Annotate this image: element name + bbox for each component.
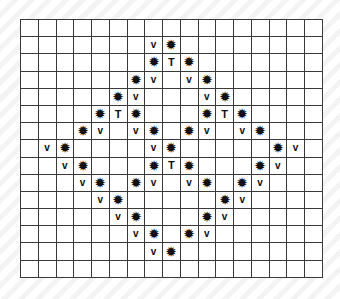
grid-cell	[234, 54, 252, 71]
grid-cell: ✹	[270, 140, 288, 157]
v-marker: v	[275, 161, 281, 171]
grid-cell	[199, 20, 217, 37]
grid-cell	[39, 89, 57, 106]
star-burst-icon: ✹	[184, 125, 194, 137]
grid-cell	[252, 209, 270, 226]
grid-cell	[234, 20, 252, 37]
t-marker: T	[168, 57, 175, 68]
star-burst-icon: ✹	[78, 125, 88, 137]
grid-cell	[216, 72, 234, 89]
grid-cell	[163, 89, 181, 106]
grid-cell	[216, 140, 234, 157]
star-burst-icon: ✹	[166, 39, 176, 51]
grid-cell	[234, 261, 252, 278]
grid-cell	[234, 89, 252, 106]
grid-cell: v	[199, 123, 217, 140]
grid-cell	[57, 226, 75, 243]
grid-cell	[110, 226, 128, 243]
grid-cell	[21, 261, 39, 278]
grid-cell: ✹	[128, 209, 146, 226]
grid-cell	[216, 20, 234, 37]
grid-cell	[199, 37, 217, 54]
grid-cell	[74, 106, 92, 123]
grid-cell	[21, 140, 39, 157]
grid-cell	[92, 261, 110, 278]
grid-cell	[234, 140, 252, 157]
v-marker: v	[151, 247, 157, 257]
grid-cell	[305, 123, 323, 140]
symbol-grid: v✹✹T✹✹vv✹✹vv✹✹T✹✹T✹✹vv✹✹vv✹v✹v✹✹vv✹✹T✹✹v…	[20, 19, 323, 278]
grid-cell: ✹	[234, 106, 252, 123]
grid-cell: v	[92, 192, 110, 209]
grid-cell	[74, 37, 92, 54]
grid-cell	[74, 243, 92, 260]
grid-cell: v	[216, 209, 234, 226]
grid-cell	[270, 175, 288, 192]
grid-cell: ✹	[128, 106, 146, 123]
t-marker: T	[221, 109, 228, 120]
v-marker: v	[80, 178, 86, 188]
grid-cell	[234, 72, 252, 89]
grid-cell	[252, 106, 270, 123]
v-marker: v	[133, 229, 139, 239]
grid-cell	[57, 123, 75, 140]
grid-cell	[163, 20, 181, 37]
grid-cell	[21, 192, 39, 209]
grid-cell	[92, 54, 110, 71]
v-marker: v	[151, 178, 157, 188]
grid-cell	[110, 140, 128, 157]
grid-cell	[163, 72, 181, 89]
star-burst-icon: ✹	[202, 211, 212, 223]
grid-cell	[74, 54, 92, 71]
grid-cell	[270, 106, 288, 123]
grid-cell: v	[145, 140, 163, 157]
grid-cell: v	[199, 226, 217, 243]
grid-cell: ✹	[181, 226, 199, 243]
star-burst-icon: ✹	[131, 74, 141, 86]
grid-cell: ✹	[110, 192, 128, 209]
grid-cell	[270, 226, 288, 243]
v-marker: v	[240, 195, 246, 205]
grid-cell: ✹	[163, 243, 181, 260]
grid-cell	[39, 209, 57, 226]
grid-cell	[74, 20, 92, 37]
grid-cell	[110, 175, 128, 192]
star-burst-icon: ✹	[255, 125, 265, 137]
grid-cell	[199, 158, 217, 175]
grid-cell	[39, 158, 57, 175]
grid-cell	[145, 209, 163, 226]
grid-cell: v	[39, 140, 57, 157]
v-marker: v	[151, 40, 157, 50]
grid-cell	[287, 123, 305, 140]
grid-cell	[234, 158, 252, 175]
t-marker: T	[115, 109, 122, 120]
grid-cell	[181, 243, 199, 260]
v-marker: v	[186, 75, 192, 85]
grid-cell	[21, 123, 39, 140]
star-burst-icon: ✹	[166, 246, 176, 258]
grid-cell	[305, 54, 323, 71]
grid-cell	[74, 72, 92, 89]
grid-cell	[110, 243, 128, 260]
grid-cell	[287, 106, 305, 123]
grid-cell	[216, 54, 234, 71]
grid-cell	[163, 123, 181, 140]
v-marker: v	[186, 178, 192, 188]
grid-cell	[92, 158, 110, 175]
grid-cell	[287, 20, 305, 37]
grid-cell	[110, 261, 128, 278]
grid-cell	[287, 72, 305, 89]
v-marker: v	[115, 212, 121, 222]
grid-cell: ✹	[110, 89, 128, 106]
grid-cell: ✹	[74, 158, 92, 175]
grid-cell: ✹	[145, 123, 163, 140]
grid-cell	[92, 20, 110, 37]
grid-cell	[39, 226, 57, 243]
grid-cell	[163, 106, 181, 123]
grid-cell: v	[74, 175, 92, 192]
grid-cell	[110, 20, 128, 37]
grid-cell	[234, 243, 252, 260]
grid-cell	[110, 123, 128, 140]
grid-cell	[305, 192, 323, 209]
grid-cell	[57, 37, 75, 54]
